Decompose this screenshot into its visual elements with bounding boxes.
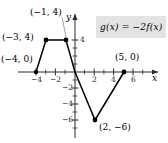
point-label-5-0: (5, 0) (115, 53, 139, 62)
data-point (64, 38, 69, 43)
x-tick-label-6: 6 (131, 76, 136, 84)
x-tick-label-4: 4 (111, 76, 116, 84)
point-label-neg3-4: (−3, 4) (2, 33, 34, 42)
function-graph-figure: g(x) = −2f(x) (−1, 4) (−3, 4) (−4, 0) (5… (0, 0, 168, 143)
point-label-neg1-4: (−1, 4) (30, 8, 62, 17)
x-tick-label-neg4: −4 (31, 76, 42, 84)
x-tick-label-neg2: −2 (50, 76, 61, 84)
point-label-2-neg6: (2, −6) (99, 123, 131, 132)
y-axis-label: y (66, 13, 71, 22)
equation-text: g(x) = −2f(x) (100, 22, 162, 32)
y-tick-label-4: 4 (80, 36, 85, 44)
x-axis-label: x (152, 74, 157, 83)
y-tick-label-neg6: −6 (62, 116, 73, 124)
data-point (44, 38, 49, 43)
y-tick-label-neg4: −4 (62, 100, 73, 108)
point-label-neg4-0: (−4, 0) (1, 55, 33, 64)
x-tick-label-2: 2 (92, 76, 97, 84)
y-tick-label-neg2: −2 (62, 84, 73, 92)
data-point (122, 70, 127, 75)
data-point (34, 70, 38, 74)
data-point (93, 118, 98, 123)
